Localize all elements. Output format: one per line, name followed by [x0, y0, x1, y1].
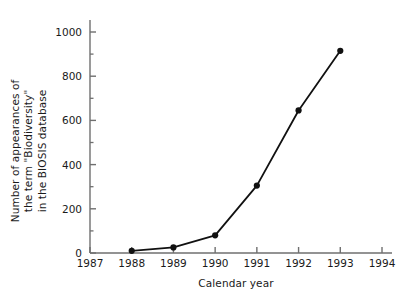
- x-tick-label: 1990: [202, 257, 229, 269]
- series-line: [132, 51, 341, 251]
- data-point-marker: [337, 48, 343, 54]
- x-tick-label: 1993: [327, 257, 354, 269]
- x-tick-label: 1989: [160, 257, 187, 269]
- chart-figure: Number of appearances of the term "Biodi…: [0, 0, 396, 302]
- x-tick-label: 1991: [243, 257, 270, 269]
- y-tick-label: 600: [62, 114, 82, 126]
- data-point-marker: [170, 244, 176, 250]
- y-tick-label: 1000: [55, 26, 82, 38]
- y-tick-labels: 02004006008001000: [55, 26, 82, 259]
- x-tick-label: 1987: [77, 257, 104, 269]
- data-point-marker: [212, 232, 218, 238]
- y-axis-ticks: [90, 32, 96, 253]
- x-tick-label: 1994: [369, 257, 396, 269]
- x-tick-label: 1988: [118, 257, 145, 269]
- data-markers: [129, 48, 344, 254]
- data-point-marker: [254, 182, 260, 188]
- x-tick-labels: 19871988198919901991199219931994: [77, 257, 396, 269]
- axis-lines: [90, 20, 392, 253]
- plot-area: 02004006008001000 1987198819891990199119…: [0, 0, 396, 302]
- data-point-marker: [129, 248, 135, 254]
- data-line: [132, 51, 341, 251]
- y-tick-label: 800: [62, 70, 82, 82]
- x-tick-label: 1992: [285, 257, 312, 269]
- data-point-marker: [295, 107, 301, 113]
- y-tick-label: 400: [62, 159, 82, 171]
- y-tick-label: 200: [62, 203, 82, 215]
